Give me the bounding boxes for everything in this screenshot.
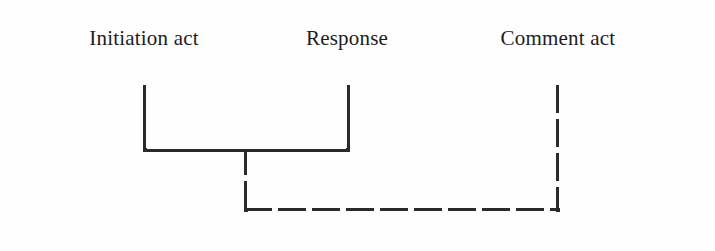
solid-bracket-left-arm (143, 85, 146, 151)
dashed-bracket-right-arm (556, 85, 559, 211)
label-initiation-act: Initiation act (89, 28, 199, 49)
dashed-bracket-corner-right (556, 208, 560, 212)
dashed-bracket-left-arm (244, 151, 247, 210)
solid-bracket-corner-right (346, 148, 350, 152)
dashed-bracket-corner-left (244, 208, 248, 212)
solid-bracket-corner-left (143, 148, 147, 152)
solid-bracket-right-arm (347, 85, 350, 151)
label-comment-act: Comment act (501, 28, 616, 49)
label-response: Response (306, 28, 388, 49)
dashed-bracket-crossbar (244, 208, 559, 211)
discourse-act-diagram: Initiation act Response Comment act (0, 0, 715, 251)
